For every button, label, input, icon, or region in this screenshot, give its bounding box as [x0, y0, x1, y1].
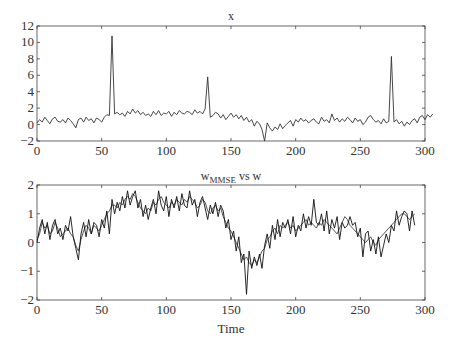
x-tick-label: 300	[415, 302, 435, 317]
plot-title-w-mmse: wMMSE vs w	[201, 169, 262, 185]
y-tick-label: 6	[28, 67, 35, 82]
y-tick-label: −2	[20, 292, 34, 307]
x-tick-label: 0	[34, 143, 41, 158]
axes-x: 050100150200250300−2024681012	[20, 18, 435, 158]
x-tick-label: 150	[221, 302, 241, 317]
y-tick-label: 2	[28, 177, 35, 192]
chart-canvas: x 050100150200250300−2024681012 wMMSE vs…	[0, 0, 453, 346]
y-tick-label: 12	[21, 18, 34, 33]
series-x-line	[37, 36, 433, 141]
y-tick-label: −2	[20, 133, 34, 148]
series-w-line	[37, 194, 415, 266]
x-tick-label: 250	[351, 302, 371, 317]
x-tick-label: 50	[95, 302, 108, 317]
y-tick-label: 8	[28, 51, 35, 66]
y-tick-label: 4	[28, 84, 35, 99]
plot-x: x 050100150200250300−2024681012	[20, 9, 435, 158]
x-tick-label: 250	[351, 143, 371, 158]
x-tick-label: 150	[221, 143, 241, 158]
x-tick-label: 300	[415, 143, 435, 158]
x-tick-label: 200	[286, 143, 306, 158]
plot-title-x: x	[228, 9, 234, 23]
series-w-mmse-line	[37, 191, 415, 294]
x-tick-label: 100	[157, 302, 177, 317]
y-tick-label: 10	[21, 34, 34, 49]
axes-w-mmse: 050100150200250300−2−1012	[20, 177, 435, 317]
plot-w-mmse-vs-w: wMMSE vs w 050100150200250300−2−1012 Tim…	[20, 169, 435, 336]
x-tick-label: 50	[95, 143, 108, 158]
x-tick-label: 200	[286, 302, 306, 317]
y-tick-label: 1	[28, 206, 35, 221]
x-axis-label-time: Time	[218, 321, 245, 336]
plot-frame	[37, 26, 425, 141]
y-tick-label: 2	[28, 100, 35, 115]
y-tick-label: 0	[28, 235, 35, 250]
x-tick-label: 100	[157, 143, 177, 158]
x-tick-label: 0	[34, 302, 41, 317]
plot-frame	[37, 185, 425, 300]
y-tick-label: −1	[20, 263, 34, 278]
y-tick-label: 0	[28, 117, 35, 132]
